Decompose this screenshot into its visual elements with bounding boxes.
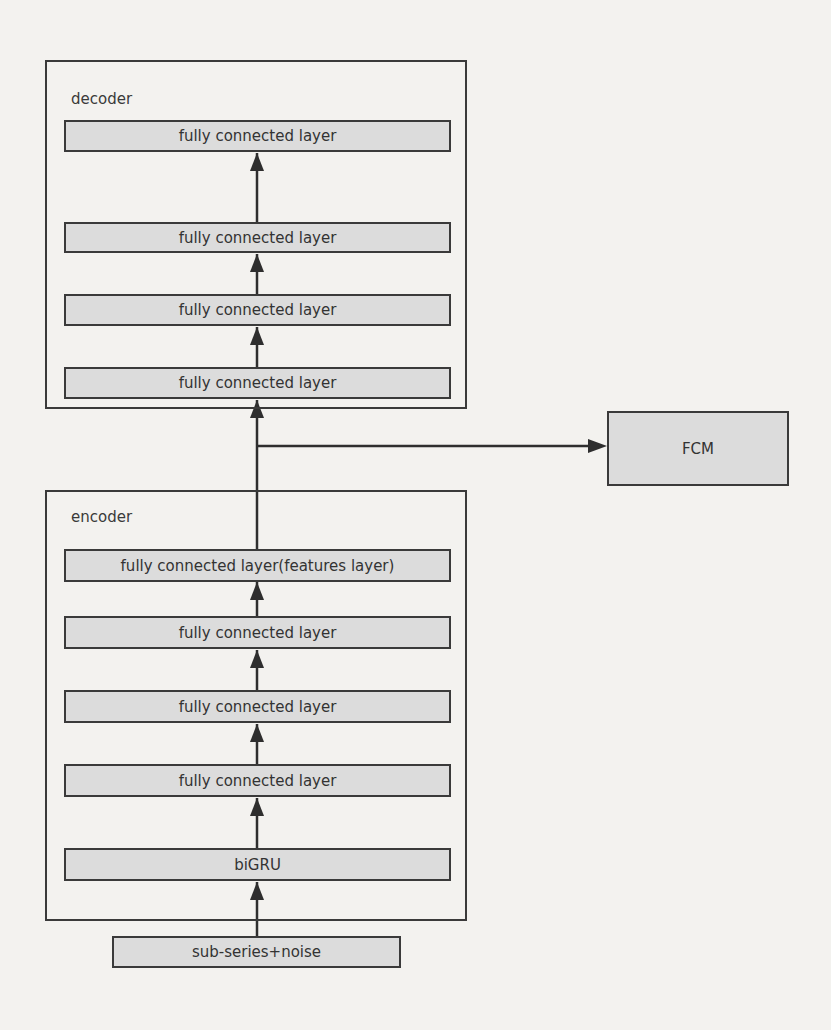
encoder-label: encoder: [71, 508, 132, 526]
encoder-features-layer: fully connected layer(features layer): [64, 549, 451, 582]
input-box: sub-series+noise: [112, 936, 401, 968]
encoder-bigru-layer: biGRU: [64, 848, 451, 881]
encoder-layer-fc-3: fully connected layer: [64, 764, 451, 797]
decoder-layer-4: fully connected layer: [64, 367, 451, 399]
encoder-layer-fc-1: fully connected layer: [64, 616, 451, 649]
encoder-layer-fc-2: fully connected layer: [64, 690, 451, 723]
decoder-layer-3: fully connected layer: [64, 294, 451, 326]
fcm-box: FCM: [607, 411, 789, 486]
decoder-label: decoder: [71, 90, 132, 108]
decoder-layer-1: fully connected layer: [64, 120, 451, 152]
decoder-layer-2: fully connected layer: [64, 222, 451, 253]
